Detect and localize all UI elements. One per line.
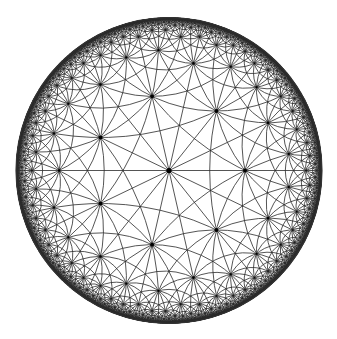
poincare-disk-tiling (0, 0, 337, 339)
